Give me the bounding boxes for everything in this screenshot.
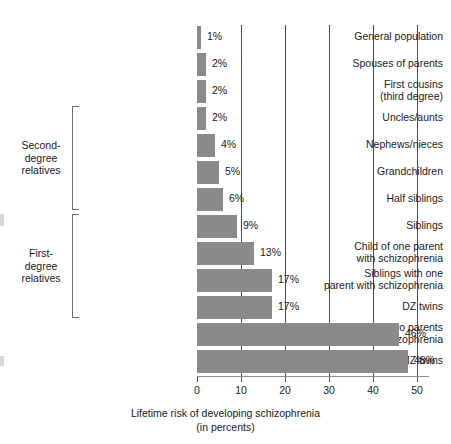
bar-value-label: 17% [278,300,299,312]
x-tick-label: 30 [314,384,344,396]
x-tick-label: 10 [226,384,256,396]
x-axis-title: Lifetime risk of developing schizophreni… [0,406,451,434]
x-tick-10 [241,377,242,382]
category-label: Half siblings [256,192,451,204]
bar-value-label: 6% [229,192,244,204]
x-tick-label: 40 [358,384,388,396]
group-label: First- degree relatives [14,247,68,285]
category-label: Spouses of parents [256,57,451,69]
x-tick-50 [417,377,418,382]
bar-value-label: 2% [212,57,227,69]
bar-value-label: 5% [225,165,240,177]
bar [197,188,223,211]
schizophrenia-risk-chart: General population1%Spouses of parents2%… [0,0,451,444]
category-label: Nephews/nieces [256,138,451,150]
bar-value-label: 1% [207,30,222,42]
bar [197,323,399,346]
group-label: Second- degree relatives [14,139,68,177]
bar-value-label: 2% [212,84,227,96]
bar-row: Child of two parents with schizophrenia4… [0,322,451,349]
category-label: Siblings [256,219,451,231]
bar-value-label: 46% [405,327,426,339]
bar-value-label: 17% [278,273,299,285]
x-tick-0 [197,377,198,382]
bar-row: Siblings9% [0,214,451,241]
bar [197,53,206,76]
category-label: Child of one parent with schizophrenia [256,240,451,264]
category-label: General population [256,30,451,42]
group-bracket [72,106,79,210]
bar-value-label: 2% [212,111,227,123]
x-tick-30 [329,377,330,382]
bar [197,80,206,103]
x-tick-label: 50 [402,384,432,396]
bar [197,242,254,265]
bar [197,161,219,184]
bar [197,107,206,130]
bar [197,26,201,49]
category-label: Grandchildren [256,165,451,177]
x-tick-40 [373,377,374,382]
bar [197,269,272,292]
bar-value-label: 4% [221,138,236,150]
bar-row: Uncles/aunts2% [0,106,451,133]
bar-row: MZ twins48% [0,349,451,376]
x-tick-label: 0 [182,384,212,396]
x-axis-line [197,376,429,377]
group-bracket [72,214,79,318]
bar [197,350,408,373]
bar [197,215,237,238]
bar-value-label: 9% [243,219,258,231]
x-tick-20 [285,377,286,382]
bar-value-label: 13% [260,246,281,258]
bar-row: Spouses of parents2% [0,52,451,79]
bar [197,296,272,319]
bar [197,134,215,157]
x-tick-label: 20 [270,384,300,396]
bar-row: Half siblings6% [0,187,451,214]
category-label: Uncles/aunts [256,111,451,123]
bar-row: DZ twins17% [0,295,451,322]
category-label: First cousins (third degree) [256,78,451,102]
bar-value-label: 48% [414,354,435,366]
bar-row: First cousins (third degree)2% [0,79,451,106]
bar-row: General population1% [0,25,451,52]
